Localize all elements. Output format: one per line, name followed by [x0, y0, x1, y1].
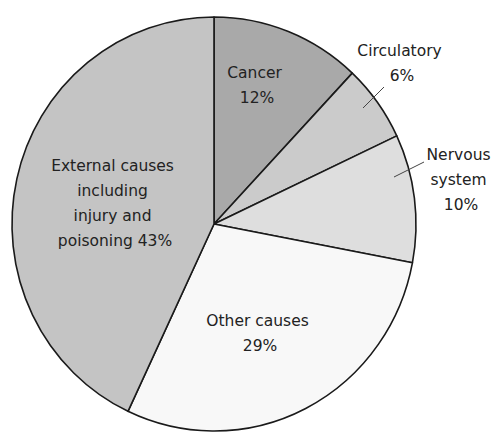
pie-chart: Cancer 12% Circulatory 6% Nervous system…	[0, 0, 502, 440]
label-circulatory: Circulatory 6%	[357, 42, 446, 85]
label-nervous-system: Nervous system 10%	[427, 146, 496, 214]
